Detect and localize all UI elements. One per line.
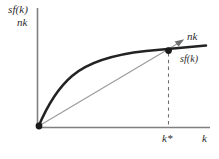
x-axis-label-k: k: [202, 133, 207, 144]
curve-label-sfk: sf(k): [180, 54, 198, 64]
x-axis-tick-label-kstar: k*: [162, 133, 173, 144]
y-axis-label-sfk: sf(k): [8, 4, 28, 15]
origin-point-dot: [36, 123, 43, 130]
steady-state-point-dot: [165, 47, 172, 54]
y-axis-label-nk: nk: [17, 17, 28, 28]
plot-area: [0, 0, 219, 159]
curve-label-nk: nk: [187, 31, 198, 42]
solow-growth-diagram: sf(k) nk nk sf(k) k* k: [0, 0, 219, 159]
investment-line-nk: [38, 41, 182, 127]
nk-arrowhead: [175, 39, 185, 46]
